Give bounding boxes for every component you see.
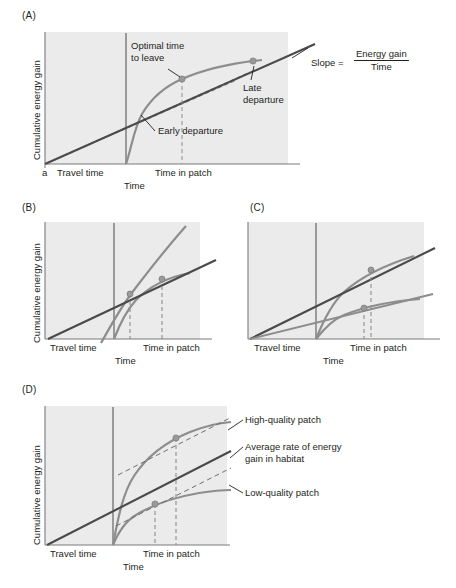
panel-c-xtick-travel: Travel time [254, 342, 301, 353]
late-line-1: Late [243, 82, 262, 93]
panel-c-xlabel: Time [323, 355, 344, 366]
panel-d-label-low-quality: Low-quality patch [245, 487, 319, 499]
panel-a-slope-word: Slope = [311, 57, 344, 68]
panel-a-late-point [250, 58, 256, 64]
panel-a-slope-fraction: Energy gain Time [354, 48, 409, 72]
panel-b-tangent-point-left [127, 291, 133, 297]
panel-d-leader-average [230, 447, 243, 458]
average-rate-line-2: gain in habitat [245, 453, 304, 464]
slope-numerator: Energy gain [354, 48, 409, 59]
optimal-line-1: Optimal time [131, 40, 184, 51]
panel-a-xtick-travel: Travel time [57, 167, 104, 178]
panel-a-plot [0, 0, 456, 195]
panel-a-xtick-patch: Time in patch [155, 167, 212, 178]
panel-c-tangent-point-low [361, 305, 367, 311]
panel-c-tangent-point-high [368, 267, 374, 273]
panel-a-callout-early: Early departure [158, 125, 223, 137]
panel-d-leader-low [229, 485, 243, 493]
panel-d-label-average-rate: Average rate of energy gain in habitat [245, 441, 341, 464]
panel-b-xlabel: Time [115, 355, 136, 366]
panel-b-xtick-travel: Travel time [50, 342, 97, 353]
panel-d-xtick-travel: Travel time [50, 548, 97, 559]
panel-a-xtick-a: a [42, 167, 47, 178]
panel-d-xlabel: Time [123, 561, 144, 572]
panel-c-plot-bg [248, 222, 424, 339]
panel-c: (C) Travel time Time in patch Time [228, 198, 456, 376]
panel-d-tangent-point-high [173, 435, 179, 441]
panel-c-xtick-patch: Time in patch [350, 342, 407, 353]
panel-a-xlabel: Time [124, 180, 145, 191]
panel-a-callout-optimal: Optimal time to leave [131, 40, 184, 63]
late-line-2: departure [243, 94, 284, 105]
panel-d-tangent-point-low [152, 501, 158, 507]
panel-a-callout-late: Late departure [243, 82, 284, 105]
panel-d-xtick-patch: Time in patch [143, 548, 200, 559]
slope-denominator: Time [354, 61, 409, 72]
panel-b: (B) Cumulative energy gain Travel time T… [0, 198, 228, 376]
panel-b-xtick-patch: Time in patch [143, 342, 200, 353]
optimal-line-2: to leave [131, 52, 164, 63]
panel-d-plot-bg [45, 406, 227, 545]
panel-d: (D) Cumulative energy gain High-quality … [0, 378, 456, 588]
panel-b-tangent-point-right [159, 276, 165, 282]
panel-a: (A) Cumulative energy gain Optimal time [0, 0, 456, 195]
average-rate-line-1: Average rate of energy [245, 441, 341, 452]
panel-d-label-high-quality: High-quality patch [245, 414, 321, 426]
